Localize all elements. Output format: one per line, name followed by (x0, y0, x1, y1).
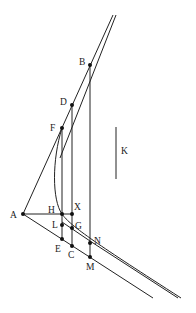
label-m: M (86, 262, 95, 272)
point-m (88, 255, 92, 259)
line-parallel-upper (60, 15, 116, 158)
point-x (70, 212, 74, 216)
label-x: X (74, 202, 81, 212)
point-c (70, 244, 74, 248)
label-a: A (10, 210, 17, 220)
point-d (70, 103, 74, 107)
point-e (60, 237, 64, 241)
point-f (60, 126, 64, 130)
label-f: F (50, 123, 55, 133)
line-l-n (62, 222, 178, 298)
label-b: B (79, 57, 85, 67)
line-a-m (23, 214, 153, 298)
label-e: E (55, 244, 61, 254)
label-l: L (52, 220, 58, 230)
point-l (60, 223, 64, 227)
label-k: K (121, 146, 128, 156)
label-n: N (94, 236, 101, 246)
label-g: G (75, 221, 82, 231)
geometry-diagram: A B C D E F G H K L M N X (0, 0, 196, 313)
label-d: D (60, 97, 67, 107)
point-b (88, 63, 92, 67)
line-a-b (23, 15, 113, 214)
label-c: C (68, 250, 74, 260)
point-g (70, 226, 74, 230)
labels: A B C D E F G H K L M N X (10, 57, 128, 272)
point-h (60, 212, 64, 216)
label-h: H (48, 205, 55, 215)
point-a (21, 212, 25, 216)
point-n (88, 241, 92, 245)
